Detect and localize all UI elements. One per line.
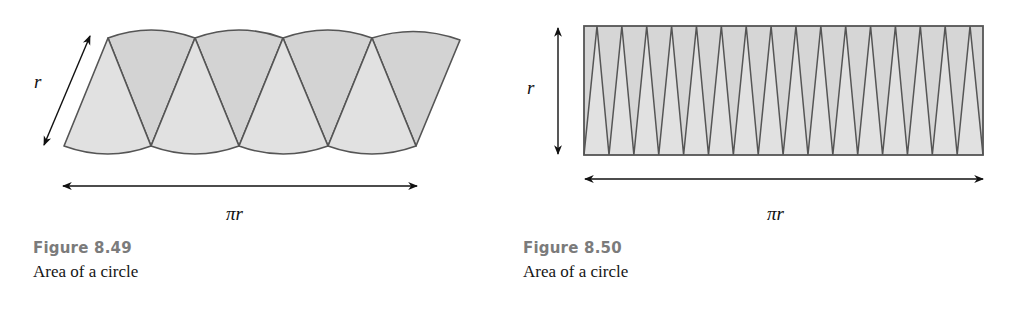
figure-caption: Area of a circle bbox=[33, 263, 138, 280]
figure-caption: Area of a circle bbox=[523, 263, 628, 280]
pi-r-label: πr bbox=[767, 204, 784, 223]
figure-number: Figure 8.50 bbox=[523, 241, 622, 256]
figures-canvas bbox=[0, 0, 1012, 318]
figure-number: Figure 8.49 bbox=[33, 241, 132, 256]
figure-8-49-diagram bbox=[44, 30, 460, 186]
pi-r-label: πr bbox=[226, 204, 243, 223]
figure-8-50-diagram bbox=[558, 26, 983, 179]
radius-label: r bbox=[527, 78, 534, 97]
radius-label: r bbox=[34, 72, 41, 91]
